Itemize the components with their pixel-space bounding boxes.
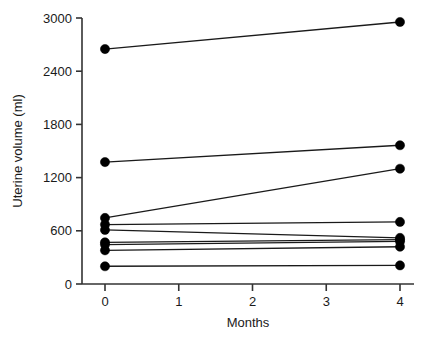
data-point-marker (100, 157, 109, 166)
data-point-marker (395, 164, 404, 173)
y-tick-label: 2400 (43, 64, 72, 79)
chart-container: 06001200180024003000 01234 Uterine volum… (0, 0, 425, 338)
y-tick-label: 1200 (43, 170, 72, 185)
line-chart: 06001200180024003000 01234 Uterine volum… (0, 0, 425, 338)
data-point-marker (100, 44, 109, 53)
x-tick-label: 1 (175, 294, 182, 309)
data-point-marker (395, 17, 404, 26)
y-axis-title: Uterine volume (ml) (10, 94, 25, 207)
x-tick-label: 4 (396, 294, 403, 309)
x-tick-label: 3 (323, 294, 330, 309)
data-point-marker (395, 242, 404, 251)
x-tick-label: 2 (249, 294, 256, 309)
y-tick-label: 600 (50, 223, 72, 238)
data-point-marker (395, 261, 404, 270)
data-point-marker (395, 141, 404, 150)
y-tick-label: 0 (65, 277, 72, 292)
data-point-marker (100, 225, 109, 234)
series-line (105, 265, 400, 266)
x-axis-title: Months (227, 315, 270, 330)
chart-background (0, 0, 425, 338)
x-tick-label: 0 (101, 294, 108, 309)
data-point-marker (100, 262, 109, 271)
data-point-marker (100, 246, 109, 255)
y-tick-label: 3000 (43, 11, 72, 26)
y-tick-label: 1800 (43, 117, 72, 132)
data-point-marker (395, 217, 404, 226)
